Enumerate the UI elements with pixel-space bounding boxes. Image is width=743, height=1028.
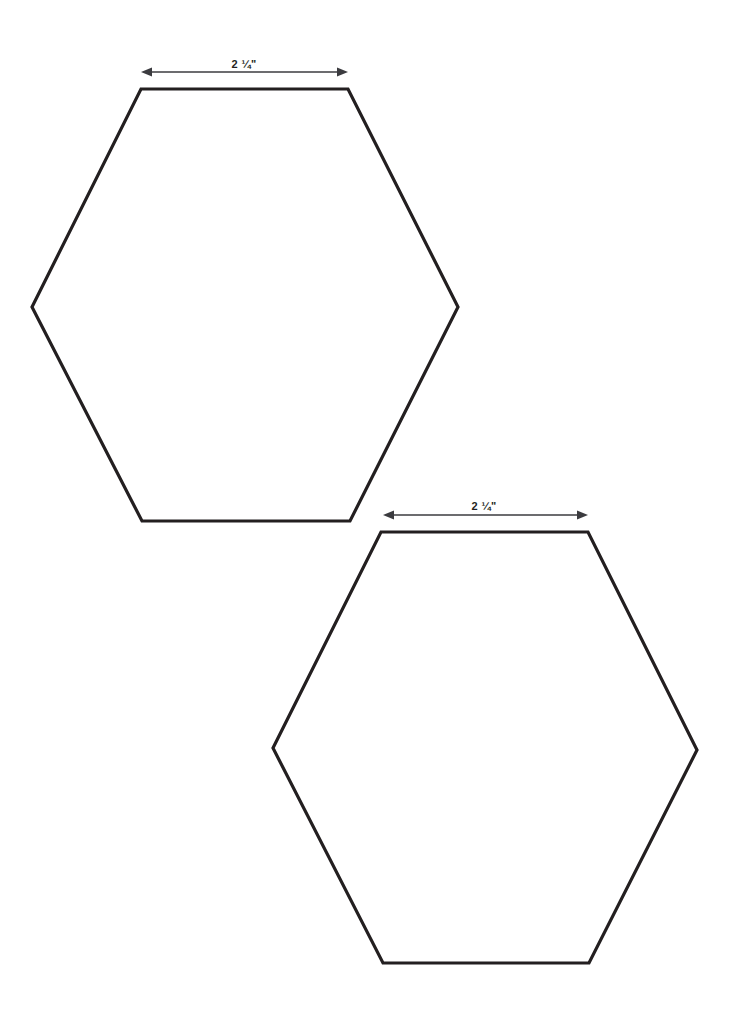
dimension-line-2-arrowhead-left [383, 511, 394, 520]
dimension-label-1: 2 ¼" [231, 59, 256, 70]
hexagon-shape-2 [273, 532, 697, 963]
dimension-line-1-arrowhead-left [141, 68, 152, 77]
hexagon-template-page: 2 ¼" 2 ¼" [0, 0, 743, 1028]
dimension-line-2-arrowhead-right [577, 511, 588, 520]
template-canvas [0, 0, 743, 1028]
dimension-line-1-arrowhead-right [337, 68, 348, 77]
dimension-label-2: 2 ¼" [471, 501, 496, 512]
hexagon-shape-1 [32, 89, 458, 521]
